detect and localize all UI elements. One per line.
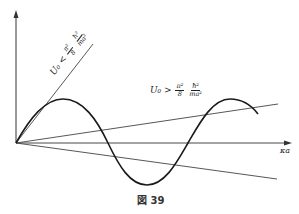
figure-caption: 図 39 <box>137 192 164 207</box>
shallow-line-label: U₀ > π² 8 ħ² ma² <box>150 83 203 98</box>
fraction-pi: π² 8 <box>175 83 184 98</box>
x-axis-arrow-icon <box>284 141 292 146</box>
x-axis-label: κa <box>280 147 290 155</box>
label-lhs: U₀ > <box>150 85 172 95</box>
diagram-canvas <box>0 0 299 214</box>
shallow-line-upper <box>16 104 278 143</box>
fraction-hbar: ħ² ma² <box>189 83 202 98</box>
frac-den: 8 <box>178 91 182 98</box>
shallow-line-lower <box>16 143 277 179</box>
sine-curve <box>16 99 258 185</box>
frac-den: ma² <box>189 91 202 98</box>
y-axis-arrow-icon <box>14 10 19 18</box>
